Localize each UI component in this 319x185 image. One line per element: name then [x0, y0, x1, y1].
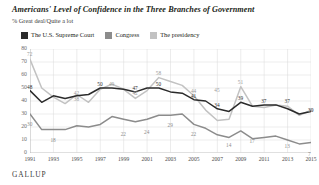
y-axis-tick: 40: [13, 98, 27, 104]
data-point-label: 39: [238, 96, 243, 101]
legend-item-congress[interactable]: Congress: [105, 32, 139, 39]
data-point-label: 58: [156, 71, 161, 76]
y-axis-tick: 30: [13, 111, 27, 117]
plot-area: [30, 49, 311, 153]
x-axis-tick: 2015: [298, 157, 319, 163]
chart-figure: Americans' Level of Confidence in the Th…: [0, 0, 319, 185]
data-point-label: 37: [261, 99, 266, 104]
data-point-label: 30: [27, 122, 32, 127]
data-point-label: 24: [144, 130, 149, 135]
y-axis-tick: 60: [13, 72, 27, 78]
data-point-label: 17: [249, 139, 254, 144]
x-axis-tick: 2001: [134, 157, 160, 163]
line-chart-svg: [30, 49, 311, 153]
x-axis-tick: 1993: [40, 157, 66, 163]
page-title: Americans' Level of Confidence in the Th…: [12, 5, 254, 14]
y-axis-tick: 50: [13, 85, 27, 91]
data-point-label: 29: [308, 108, 313, 113]
data-point-label: 13: [285, 144, 290, 149]
x-axis-tick: 2005: [181, 157, 207, 163]
data-point-label: 51: [238, 80, 243, 85]
legend-label-presidency: The presidency: [160, 32, 199, 38]
source-attribution: GALLUP: [12, 170, 47, 179]
x-axis-tick: 2011: [251, 157, 277, 163]
data-point-label: 34: [214, 103, 219, 108]
chart-subtitle: % Great deal/Quite a lot: [12, 17, 73, 24]
x-axis-tick: 1999: [111, 157, 137, 163]
y-axis-tick: 10: [13, 137, 27, 143]
x-axis-tick: 2003: [158, 157, 184, 163]
legend-item-supreme-court[interactable]: The U.S. Supreme Court: [21, 32, 94, 39]
data-point-label: 50: [156, 82, 161, 87]
x-axis-tick: 2009: [228, 157, 254, 163]
data-point-label: 29: [168, 123, 173, 128]
data-point-label: 72: [27, 52, 32, 57]
data-point-label: 50: [97, 82, 102, 87]
legend-swatch-presidency: [150, 32, 157, 39]
data-point-label: 48: [27, 85, 32, 90]
data-point-label: 49: [109, 82, 114, 87]
data-point-label: 14: [226, 143, 231, 148]
x-axis-tick: 1991: [17, 157, 43, 163]
data-point-label: 45: [214, 88, 219, 93]
data-point-label: 44: [191, 89, 196, 94]
data-point-label: 22: [191, 132, 196, 137]
data-point-label: 22: [121, 132, 126, 137]
y-axis-tick: 80: [13, 46, 27, 52]
data-point-label: 18: [50, 138, 55, 143]
legend-swatch-supreme-court: [21, 32, 28, 39]
legend-item-presidency[interactable]: The presidency: [150, 32, 199, 39]
data-point-label: 37: [285, 99, 290, 104]
chart-legend: The U.S. Supreme Court Congress The pres…: [21, 32, 199, 39]
y-axis-tick: 70: [13, 59, 27, 65]
x-axis-tick: 2013: [275, 157, 301, 163]
x-axis-tick: 2007: [204, 157, 230, 163]
data-point-label: 42: [74, 91, 79, 96]
y-axis-tick: 20: [13, 124, 27, 130]
x-axis-tick: 1995: [64, 157, 90, 163]
data-point-label: 42: [132, 91, 137, 96]
legend-label-congress: Congress: [115, 32, 139, 38]
legend-label-supreme-court: The U.S. Supreme Court: [31, 32, 94, 38]
legend-swatch-congress: [105, 32, 112, 39]
data-point-label: 41: [191, 94, 196, 99]
x-axis-tick: 1997: [87, 157, 113, 163]
data-point-label: 38: [74, 97, 79, 102]
y-axis-tick: 0: [13, 150, 27, 156]
